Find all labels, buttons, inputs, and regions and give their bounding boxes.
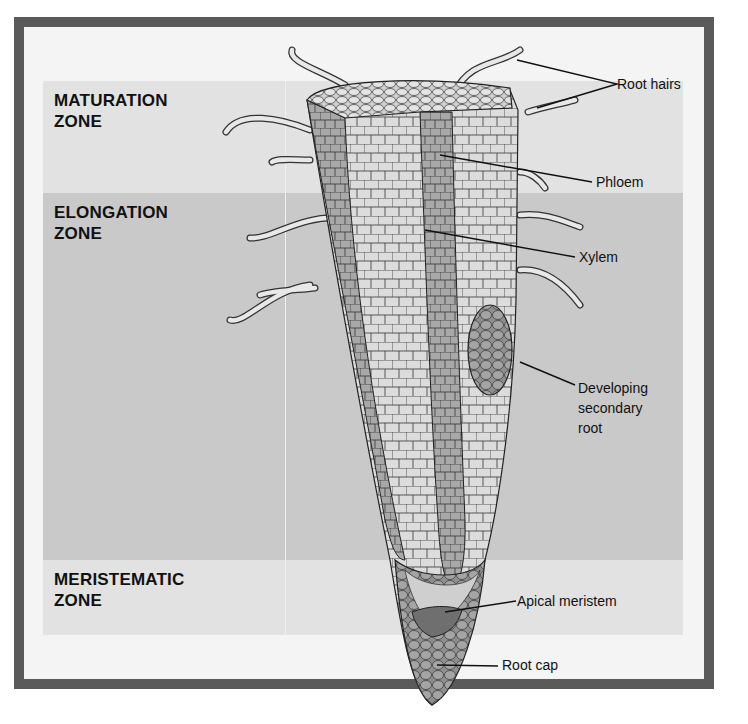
xylem-label: Xylem bbox=[579, 247, 618, 267]
developing-secondary-root bbox=[468, 305, 512, 395]
label-line: secondary bbox=[578, 398, 648, 418]
root-illustration bbox=[0, 0, 748, 724]
label-line: root bbox=[578, 418, 648, 438]
secondary-root-label: Developing secondary root bbox=[578, 378, 648, 438]
apical-meristem-label: Apical meristem bbox=[517, 591, 617, 611]
root-hairs-label: Root hairs bbox=[617, 74, 681, 94]
phloem-label: Phloem bbox=[596, 172, 643, 192]
root-cap-label: Root cap bbox=[502, 655, 558, 675]
label-line: Developing bbox=[578, 378, 648, 398]
